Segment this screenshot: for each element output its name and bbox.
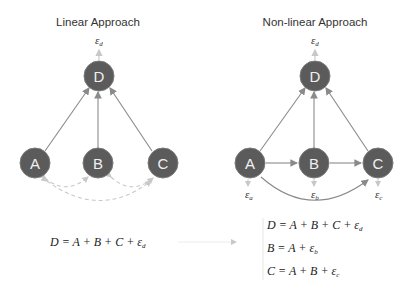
- right-node-a: A: [235, 148, 265, 178]
- svg-text:C: C: [158, 155, 169, 172]
- svg-text:D: D: [94, 68, 105, 85]
- right-error-c: εc: [375, 179, 383, 202]
- svg-text:εc: εc: [375, 188, 383, 202]
- left-node-b: B: [83, 148, 113, 178]
- left-edges: [45, 88, 152, 151]
- right-node-b: B: [299, 148, 329, 178]
- right-node-c: C: [363, 148, 393, 178]
- svg-text:εa: εa: [245, 188, 253, 202]
- svg-text:εd: εd: [95, 34, 103, 48]
- right-error-a: εa: [245, 179, 253, 202]
- svg-text:B: B: [93, 155, 103, 172]
- right-node-d: D: [300, 61, 330, 91]
- right-error-b: εb: [311, 179, 319, 202]
- nonlinear-equation-b: B = A + εb: [267, 241, 318, 256]
- left-node-d: D: [84, 61, 114, 91]
- left-node-a: A: [20, 148, 50, 178]
- svg-text:εb: εb: [311, 188, 319, 202]
- svg-text:A: A: [245, 155, 255, 172]
- nonlinear-approach-title: Non-linear Approach: [263, 16, 368, 28]
- linear-approach-title: Linear Approach: [56, 16, 140, 28]
- svg-text:A: A: [30, 155, 40, 172]
- svg-text:D: D: [310, 68, 321, 85]
- left-correlations: [45, 177, 153, 201]
- right-error-d: εd: [311, 34, 319, 60]
- left-error-d: εd: [95, 34, 103, 60]
- left-node-c: C: [148, 148, 178, 178]
- svg-text:B: B: [309, 155, 319, 172]
- nonlinear-equation-d: D = A + B + C + εd: [266, 218, 363, 233]
- linear-equation: D = A + B + C + εd: [49, 235, 146, 250]
- svg-text:εd: εd: [311, 34, 319, 48]
- svg-text:C: C: [373, 155, 384, 172]
- diagram-canvas: Linear Approach εd D A B C D = A + B + C…: [0, 0, 409, 281]
- nonlinear-equation-c: C = A + B + εc: [267, 264, 340, 279]
